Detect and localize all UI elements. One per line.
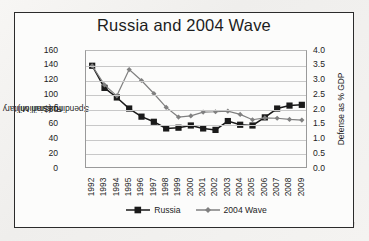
- x-axis-tick: 2008: [283, 171, 295, 205]
- data-point-marker: [275, 116, 280, 121]
- x-axis-tick: 2000: [184, 171, 196, 205]
- x-axis-tick-label: 2009: [296, 178, 306, 197]
- data-point-marker: [238, 112, 243, 117]
- x-axis-tick: 1997: [147, 171, 159, 205]
- legend-label: Russia: [154, 205, 180, 215]
- y-axis-left-tick: 120: [28, 75, 58, 84]
- x-axis-tick: 2004: [233, 171, 245, 205]
- y-axis-right-tick: 3.0: [313, 75, 341, 84]
- data-point-marker: [250, 117, 255, 122]
- data-point-marker: [138, 114, 144, 120]
- y-axis-right-tick: 1.5: [313, 119, 341, 128]
- y-axis-right-tick: 3.5: [313, 60, 341, 69]
- data-point-marker: [200, 125, 206, 131]
- data-point-marker: [212, 127, 218, 133]
- gridline: [86, 140, 306, 141]
- x-axis-tick-label: 2000: [185, 178, 195, 197]
- x-axis-tick-label: 1999: [173, 178, 183, 197]
- x-axis-tick: 1998: [159, 171, 171, 205]
- x-axis-tick-label: 2005: [247, 178, 257, 197]
- x-axis-tick: 1994: [110, 171, 122, 205]
- y-axis-left-tick: 0: [28, 164, 58, 173]
- x-axis-tick: 1999: [172, 171, 184, 205]
- x-axis-tick: 1993: [98, 171, 110, 205]
- chart-page: Russia and 2004 Wave Russian Military Sp…: [0, 0, 369, 241]
- x-axis-tick-label: 2004: [234, 178, 244, 197]
- x-axis-tick-label: 2003: [222, 178, 232, 197]
- gridline: [86, 110, 306, 111]
- data-point-marker: [225, 118, 231, 124]
- legend-square-marker-icon: [125, 205, 151, 215]
- data-point-marker: [299, 102, 305, 108]
- y-axis-right-tick: 2.5: [313, 90, 341, 99]
- legend-diamond-marker-icon: [195, 205, 221, 215]
- x-axis-tick: 2003: [221, 171, 233, 205]
- x-axis-tick-label: 2002: [210, 178, 220, 197]
- y-axis-left-tick: 140: [28, 60, 58, 69]
- y-axis-left-tick: 160: [28, 46, 58, 55]
- x-axis-tick: 1992: [85, 171, 97, 205]
- x-axis-tick-label: 1998: [160, 178, 170, 197]
- y-axis-left-tick: 100: [28, 90, 58, 99]
- x-axis-tick: 2006: [258, 171, 270, 205]
- x-axis-tick-label: 1997: [148, 178, 158, 197]
- y-axis-left-tick: 40: [28, 134, 58, 143]
- gridline: [86, 95, 306, 96]
- data-point-marker: [188, 113, 193, 118]
- x-axis-tick: 2002: [209, 171, 221, 205]
- data-point-marker: [299, 117, 304, 122]
- x-axis-tick: 1996: [135, 171, 147, 205]
- x-axis-tick-label: 1993: [99, 178, 109, 197]
- x-axis-tick-label: 2007: [271, 178, 281, 197]
- series-line: [92, 66, 302, 130]
- chart-legend: Russia2004 Wave: [85, 205, 307, 215]
- y-axis-right-tick: 0.0: [313, 164, 341, 173]
- legend-item[interactable]: 2004 Wave: [195, 205, 267, 215]
- x-axis-tick-label: 2001: [197, 178, 207, 197]
- x-axis-tick-label: 2008: [284, 178, 294, 197]
- y-axis-right-tick: 1.0: [313, 134, 341, 143]
- data-point-marker: [163, 125, 169, 131]
- y-axis-left-tick: 60: [28, 119, 58, 128]
- x-axis-tick-label: 1995: [123, 178, 133, 197]
- legend-label: 2004 Wave: [224, 205, 267, 215]
- y-axis-left-tick: 80: [28, 105, 58, 114]
- gridline: [86, 125, 306, 126]
- plot-area: [85, 50, 307, 168]
- y-axis-right-tick: 4.0: [313, 46, 341, 55]
- y-axis-right-tick: 2.0: [313, 105, 341, 114]
- y-axis-right-tick: 0.5: [313, 149, 341, 158]
- x-axis-tick-label: 1994: [111, 178, 121, 197]
- x-axis-tick-label: 2006: [259, 178, 269, 197]
- gridline: [86, 66, 306, 67]
- chart-title: Russia and 2004 Wave: [14, 16, 354, 35]
- series-line: [92, 66, 302, 120]
- x-axis-tick-label: 1996: [136, 178, 146, 197]
- gridline: [86, 154, 306, 155]
- x-axis-tick: 2005: [246, 171, 258, 205]
- x-axis-tick: 2007: [270, 171, 282, 205]
- legend-item[interactable]: Russia: [125, 205, 180, 215]
- gridline: [86, 81, 306, 82]
- data-point-marker: [287, 117, 292, 122]
- x-axis-tick: 1995: [122, 171, 134, 205]
- data-point-marker: [286, 102, 292, 108]
- y-axis-left-tick: 20: [28, 149, 58, 158]
- x-axis-tick: 2001: [196, 171, 208, 205]
- x-axis-tick: 2009: [295, 171, 307, 205]
- x-axis-tick-label: 1992: [86, 178, 96, 197]
